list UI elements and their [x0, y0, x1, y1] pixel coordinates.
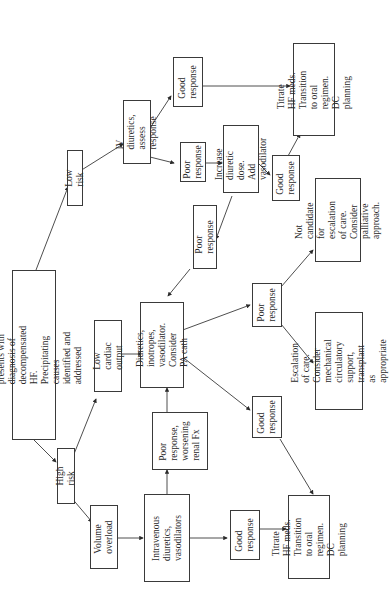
node-diuretics-inotropes-label: Diuretics, inotropes, vasodilator. Consi… [135, 323, 190, 367]
node-iv-diuretics-assess-label: IV diuretics, assess response [115, 114, 159, 149]
node-iv-diuretics-vasodilators-label: Intravenous diuretics, vasodilators [151, 515, 184, 561]
node-low-risk: Low risk [67, 150, 83, 206]
node-poor-response-renal: Poor response, worsening renal Fx [152, 412, 208, 470]
node-iv-diuretics-vasodilators: Intravenous diuretics, vasodilators [144, 494, 190, 582]
node-poor-response-mid-label: Poor response [256, 288, 278, 321]
node-poor-response-low2-label: Poor response [194, 220, 216, 253]
node-poor-response-low2: Poor response [193, 205, 217, 269]
node-diuretics-inotropes: Diuretics, inotropes, vasodilator. Consi… [140, 302, 184, 388]
node-not-candidate: Not candidate for escalation of care. Co… [315, 178, 361, 262]
node-start-label: Patient presents with diagnosis of decom… [0, 326, 84, 385]
node-titrate-low-label: Titrate HF meds. Transition to oral regi… [276, 70, 353, 109]
node-start: Patient presents with diagnosis of decom… [12, 270, 56, 440]
node-good-response-low2: Good response [272, 155, 300, 201]
node-titrate-low: Titrate HF meds. Transition to oral regi… [293, 43, 335, 136]
node-high-risk: High risk [57, 448, 75, 504]
node-poor-response-low: Poor response [180, 142, 206, 182]
node-poor-response-renal-label: Poor response, worsening renal Fx [158, 421, 202, 461]
node-escalation-of-care-label: Escalation of care. Consider mechanical … [290, 339, 389, 382]
node-increase-diuretic-label: Increase diuretic dose. Add vasodilator [214, 138, 269, 180]
node-volume-overload: Volume overload [90, 505, 118, 569]
node-good-response-low-label: Good response [177, 65, 199, 98]
node-increase-diuretic: Increase diuretic dose. Add vasodilator [223, 125, 259, 193]
node-iv-diuretics-assess: IV diuretics, assess response [123, 100, 151, 164]
node-low-cardiac-output: Low cardiac output [94, 320, 122, 392]
node-good-response-high-label: Good response [234, 518, 256, 551]
node-good-response-high: Good response [230, 510, 260, 560]
node-titrate-high-label: Titrate HF meds. Transition to oral regi… [271, 518, 348, 557]
node-poor-response-low-label: Poor response [182, 145, 204, 178]
node-escalation-of-care: Escalation of care. Consider mechanical … [315, 312, 363, 410]
node-low-cardiac-output-label: Low cardiac output [92, 342, 125, 369]
node-poor-response-mid: Poor response [252, 283, 282, 327]
node-good-response-low2-label: Good response [275, 161, 297, 194]
node-good-response-low: Good response [173, 57, 203, 107]
node-good-response-mid-label: Good response [256, 400, 278, 433]
node-volume-overload-label: Volume overload [93, 520, 115, 553]
node-not-candidate-label: Not candidate for escalation of care. Co… [294, 201, 382, 239]
node-titrate-high: Titrate HF meds. Transition to oral regi… [288, 495, 330, 579]
node-low-risk-label: Low risk [64, 169, 86, 186]
node-high-risk-label: High risk [55, 467, 77, 486]
node-good-response-mid: Good response [252, 396, 282, 438]
